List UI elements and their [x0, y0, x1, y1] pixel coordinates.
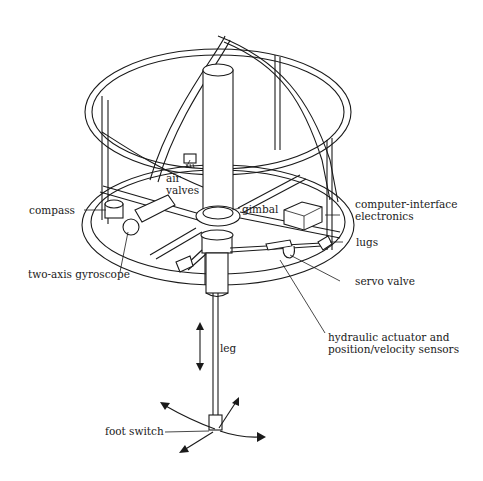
label-two-axis-gyroscope: two-axis gyroscope	[28, 268, 130, 280]
leg-motion-arrow	[196, 322, 204, 371]
label-lugs: lugs	[356, 236, 378, 248]
lower-actuator-body	[201, 230, 233, 297]
label-leg: leg	[220, 342, 236, 354]
central-column	[203, 64, 233, 215]
hopping-machine-diagram: air valves gimbal compass computer-inter…	[0, 0, 483, 481]
label-hydraulic-line1: hydraulic actuator and	[328, 331, 459, 343]
label-hydraulic-line2: position/velocity sensors	[328, 343, 459, 355]
leg	[209, 293, 222, 430]
label-computer-interface-line2: electronics	[355, 210, 457, 222]
actuator-arms	[176, 236, 332, 272]
electronics-box	[284, 202, 322, 230]
label-servo-valve: servo valve	[355, 275, 415, 287]
label-compass: compass	[29, 204, 75, 216]
label-air-valves-line1: air	[166, 172, 199, 184]
diagram-drawing	[0, 0, 483, 481]
label-computer-interface: computer-interface electronics	[355, 198, 457, 222]
compass	[105, 200, 123, 218]
label-air-valves: air valves	[166, 172, 199, 196]
label-hydraulic-actuator: hydraulic actuator and position/velocity…	[328, 331, 459, 355]
gimbal-ring	[196, 206, 240, 226]
label-computer-interface-line1: computer-interface	[355, 198, 457, 210]
label-air-valves-line2: valves	[166, 184, 199, 196]
label-gimbal: gimbal	[242, 203, 278, 215]
label-foot-switch: foot switch	[105, 425, 164, 437]
